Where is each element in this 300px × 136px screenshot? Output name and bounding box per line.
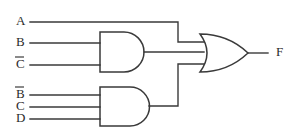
- input-labels: A B C B C D: [15, 13, 26, 125]
- or-gate-final: [200, 34, 248, 72]
- input-label-d: D: [16, 110, 25, 125]
- and-gate-lower-body: [100, 87, 150, 126]
- output-label-f: F: [276, 44, 283, 59]
- and-gate-upper-body: [100, 32, 144, 72]
- interconnect-wires: [144, 52, 204, 106]
- wire-and-lower-to-or: [149, 64, 204, 106]
- logic-circuit-diagram: A B C B C D: [0, 0, 300, 136]
- input-label-b-text: B: [16, 34, 25, 49]
- input-label-a-text: A: [16, 13, 26, 28]
- and-gate-upper: [100, 32, 144, 72]
- or-gate-final-body: [200, 34, 248, 72]
- input-label-a: A: [16, 13, 26, 28]
- circuit-canvas: A B C B C D: [0, 0, 300, 136]
- and-gate-lower: [100, 87, 150, 126]
- input-label-c-bar: C: [15, 56, 25, 71]
- input-label-c-bar-text: C: [16, 56, 25, 71]
- input-label-b: B: [16, 34, 25, 49]
- input-label-d-text: D: [16, 110, 25, 125]
- output-section: F: [248, 44, 283, 59]
